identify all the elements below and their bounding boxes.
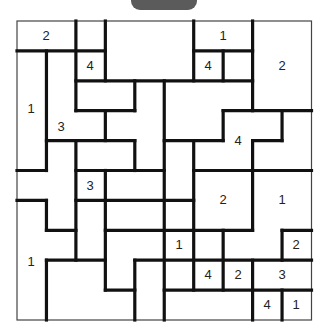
board-cell[interactable]: [282, 171, 311, 201]
board-cell[interactable]: [223, 21, 252, 51]
board-cell[interactable]: [164, 290, 193, 320]
board-cell[interactable]: [164, 260, 193, 290]
board-cell[interactable]: [282, 200, 311, 230]
board-cell[interactable]: [253, 290, 282, 320]
board-cell[interactable]: [76, 141, 105, 171]
board-cell[interactable]: [253, 260, 282, 290]
board-cell[interactable]: [135, 111, 164, 141]
board-cell[interactable]: [164, 171, 193, 201]
board-cell[interactable]: [17, 230, 46, 260]
board-cell[interactable]: [135, 171, 164, 201]
board-cell[interactable]: [105, 81, 134, 111]
board-cell[interactable]: [76, 21, 105, 51]
board-cell[interactable]: [223, 230, 252, 260]
board-cell[interactable]: [76, 260, 105, 290]
board-cell[interactable]: [282, 290, 311, 320]
board-cell[interactable]: [76, 51, 105, 81]
board-cell[interactable]: [46, 200, 75, 230]
board-cell[interactable]: [17, 111, 46, 141]
board-cell[interactable]: [253, 230, 282, 260]
board-cell[interactable]: [194, 81, 223, 111]
board-cell[interactable]: [135, 141, 164, 171]
board-cell[interactable]: [17, 200, 46, 230]
board-cell[interactable]: [223, 171, 252, 201]
board-cell[interactable]: [253, 111, 282, 141]
board-cell[interactable]: [46, 171, 75, 201]
board-cell[interactable]: [105, 260, 134, 290]
board-cell[interactable]: [46, 81, 75, 111]
board-cell[interactable]: [105, 200, 134, 230]
board-cell[interactable]: [135, 230, 164, 260]
board-cell[interactable]: [282, 81, 311, 111]
board-cell[interactable]: [223, 260, 252, 290]
board-cell[interactable]: [105, 141, 134, 171]
board-cell[interactable]: [46, 141, 75, 171]
board-cell[interactable]: [135, 21, 164, 51]
board-cell[interactable]: [223, 81, 252, 111]
board-cell[interactable]: [223, 51, 252, 81]
board-cell[interactable]: [135, 260, 164, 290]
board-cell[interactable]: [46, 111, 75, 141]
board-cell[interactable]: [194, 111, 223, 141]
board-cell[interactable]: [164, 51, 193, 81]
board-cell[interactable]: [282, 260, 311, 290]
board-cell[interactable]: [253, 200, 282, 230]
board-cell[interactable]: [76, 290, 105, 320]
board-cell[interactable]: [164, 230, 193, 260]
board-cell[interactable]: [46, 21, 75, 51]
board-cell[interactable]: [17, 141, 46, 171]
board-cell[interactable]: [76, 81, 105, 111]
board-cell[interactable]: [282, 111, 311, 141]
board-cell[interactable]: [194, 141, 223, 171]
board-cell[interactable]: [282, 141, 311, 171]
board-cell[interactable]: [17, 260, 46, 290]
board-cell[interactable]: [223, 290, 252, 320]
board-cell[interactable]: [76, 200, 105, 230]
board-cell[interactable]: [76, 230, 105, 260]
board-cell[interactable]: [46, 230, 75, 260]
board-cell[interactable]: [282, 230, 311, 260]
board-cell[interactable]: [46, 260, 75, 290]
board-cell[interactable]: [105, 111, 134, 141]
board-cell[interactable]: [164, 141, 193, 171]
board-cell[interactable]: [135, 81, 164, 111]
board-cell[interactable]: [282, 21, 311, 51]
board-cell[interactable]: [253, 21, 282, 51]
board-cell[interactable]: [253, 171, 282, 201]
board-cell[interactable]: [223, 111, 252, 141]
board-cell[interactable]: [194, 171, 223, 201]
board-cell[interactable]: [105, 51, 134, 81]
board-cell[interactable]: [17, 21, 46, 51]
board-cell[interactable]: [194, 51, 223, 81]
board-cell[interactable]: [105, 171, 134, 201]
board-cell[interactable]: [76, 171, 105, 201]
board-cell[interactable]: [135, 51, 164, 81]
board-cell[interactable]: [105, 230, 134, 260]
board-cell[interactable]: [17, 171, 46, 201]
board-cell[interactable]: [194, 230, 223, 260]
board-cell[interactable]: [282, 51, 311, 81]
board-cell[interactable]: [46, 51, 75, 81]
board-cell[interactable]: [253, 81, 282, 111]
board-cell[interactable]: [17, 81, 46, 111]
board-cell[interactable]: [17, 290, 46, 320]
board-cell[interactable]: [253, 51, 282, 81]
board-cell[interactable]: [223, 200, 252, 230]
board-cell[interactable]: [194, 21, 223, 51]
board-cell[interactable]: [164, 81, 193, 111]
board-cell[interactable]: [135, 200, 164, 230]
board-cell[interactable]: [164, 21, 193, 51]
board-cell[interactable]: [105, 290, 134, 320]
board-cell[interactable]: [253, 141, 282, 171]
board-cell[interactable]: [194, 200, 223, 230]
board-cell[interactable]: [223, 141, 252, 171]
board-cell[interactable]: [76, 111, 105, 141]
board-cell[interactable]: [17, 51, 46, 81]
board-cell[interactable]: [46, 290, 75, 320]
board-cell[interactable]: [164, 200, 193, 230]
board-cell[interactable]: [194, 260, 223, 290]
board-cell[interactable]: [105, 21, 134, 51]
board-cell[interactable]: [164, 111, 193, 141]
board-cell[interactable]: [194, 290, 223, 320]
board-cell[interactable]: [135, 290, 164, 320]
